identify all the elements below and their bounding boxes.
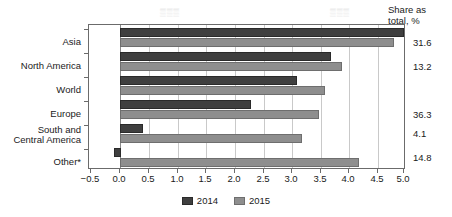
- bar-asia-2014[interactable]: [120, 28, 404, 37]
- x-tick-label-1.0: 1.0: [162, 173, 192, 184]
- bar-world-2014[interactable]: [120, 76, 297, 85]
- legend-label-2014: 2014: [197, 195, 218, 206]
- legend-item-2014[interactable]: 2014: [182, 195, 218, 206]
- y-label-europe: Europe: [0, 109, 81, 120]
- bar-south-central-america-2014[interactable]: [120, 124, 143, 133]
- x-tick-label-4.0: 4.0: [333, 173, 363, 184]
- legend-swatch-2014-icon: [182, 197, 193, 205]
- y-label-south-central-america-line2: Central America: [0, 135, 81, 146]
- x-tick-label-3.5: 3.5: [305, 173, 335, 184]
- bar-south-central-america-2015[interactable]: [120, 134, 302, 143]
- share-value-south-central-america: 4.1: [413, 128, 426, 139]
- y-label-asia: Asia: [0, 37, 81, 48]
- bar-europe-2015[interactable]: [120, 110, 319, 119]
- x-tick-label-1.5: 1.5: [190, 173, 220, 184]
- share-value-europe: 36.3: [413, 109, 432, 120]
- legend-item-2015[interactable]: 2015: [234, 195, 270, 206]
- bar-rows: [89, 25, 404, 168]
- y-axis-labels: Asia North America World Europe South an…: [0, 24, 86, 169]
- chart-legend: 2014 2015: [0, 195, 452, 206]
- legend-swatch-2015-icon: [234, 197, 245, 205]
- x-tick-label-0.0: 0.0: [104, 173, 134, 184]
- x-tick-label--0.5: −0.5: [75, 173, 105, 184]
- y-label-world: World: [0, 85, 81, 96]
- x-tick-label-0.5: 0.5: [133, 173, 163, 184]
- x-tick-label-2.0: 2.0: [219, 173, 249, 184]
- plot-area: [88, 24, 405, 169]
- share-value-asia: 31.6: [413, 37, 432, 48]
- legend-label-2015: 2015: [249, 195, 270, 206]
- y-label-north-america: North America: [0, 61, 81, 72]
- bar-asia-2015[interactable]: [120, 38, 394, 47]
- x-tick-label-2.5: 2.5: [248, 173, 278, 184]
- share-value-other: 14.8: [413, 152, 432, 163]
- bar-world-2015[interactable]: [120, 86, 325, 95]
- share-value-north-america: 13.2: [413, 61, 432, 72]
- scan-artifact: ▒▒▒: [330, 8, 350, 17]
- bar-other-2014[interactable]: [114, 148, 121, 157]
- share-header-line1: Share as: [388, 4, 450, 15]
- share-column-header: Share as total, %: [388, 4, 450, 26]
- scan-artifact: ▒▒▒: [160, 8, 180, 17]
- chart-root: ▒▒▒ ▒▒▒ Share as total, % Asia North Ame…: [0, 0, 452, 217]
- y-label-other: Other*: [0, 157, 81, 168]
- bar-north-america-2014[interactable]: [120, 52, 331, 61]
- share-values-column: 31.6 13.2 36.3 4.1 14.8: [406, 24, 452, 169]
- x-tick-label-3.0: 3.0: [276, 173, 306, 184]
- x-tick-label-5.0: 5.0: [388, 173, 418, 184]
- bar-north-america-2015[interactable]: [120, 62, 342, 71]
- x-axis: −0.5 0.0 0.5 1.0 1.5 2.0 2.5 3.0 3.5 4.0…: [88, 169, 405, 189]
- bar-europe-2014[interactable]: [120, 100, 251, 109]
- bar-other-2015[interactable]: [120, 158, 359, 167]
